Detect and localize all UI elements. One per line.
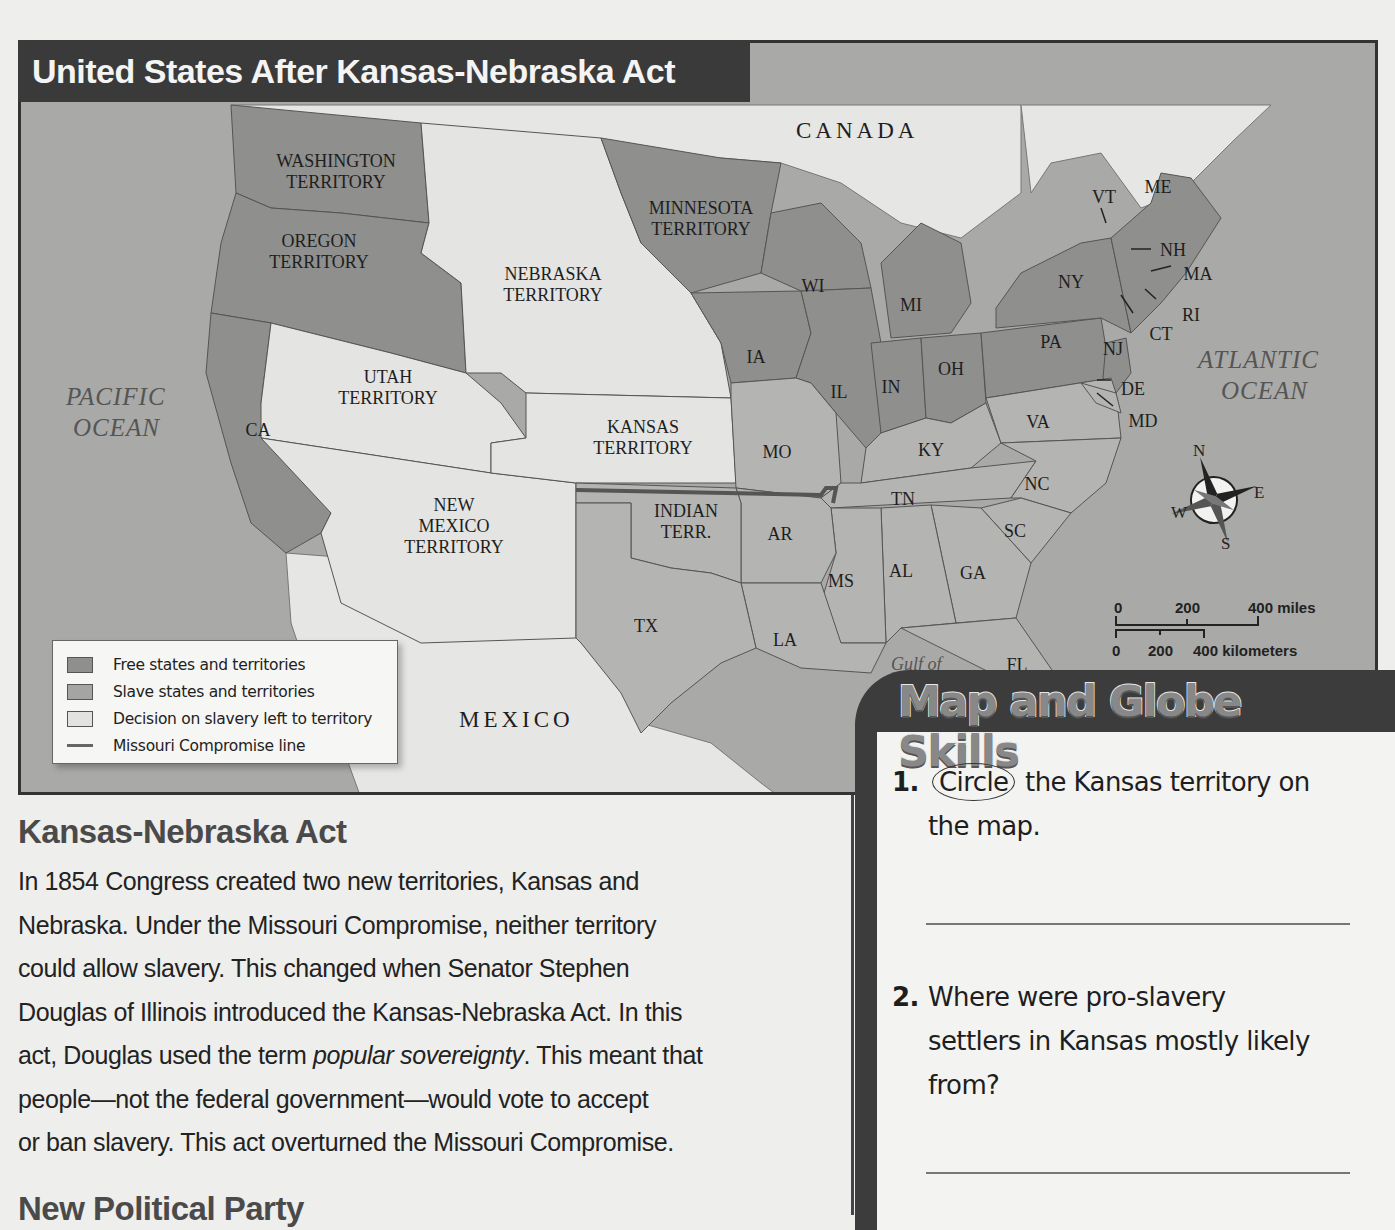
label-state-nj: NJ: [1103, 339, 1123, 359]
key-term: popular sovereignty: [313, 1041, 524, 1069]
scale-mi-0: 0: [1114, 599, 1122, 616]
answer-line-2[interactable]: [926, 1172, 1350, 1174]
body-line: Nebraska. Under the Missouri Compromise,…: [18, 904, 848, 948]
label-state-ga: GA: [960, 563, 986, 583]
legend-item-open: Decision on slavery left to territory: [67, 705, 397, 732]
label-minnesota-1: MINNESOTA: [649, 198, 754, 218]
legend-label: Missouri Compromise line: [113, 737, 305, 755]
label-nebraska-2: TERRITORY: [503, 285, 603, 305]
body-line: people—not the federal government—would …: [18, 1078, 848, 1122]
section-heading: Kansas-Nebraska Act: [18, 813, 347, 851]
legend-swatch-free: [67, 657, 93, 673]
label-state-ky: KY: [918, 440, 944, 460]
label-state-sc: SC: [1004, 521, 1026, 541]
label-minnesota-2: TERRITORY: [651, 219, 751, 239]
answer-line-1[interactable]: [926, 923, 1350, 925]
label-new-mexico-3: TERRITORY: [404, 537, 504, 557]
label-state-wi: WI: [802, 276, 825, 296]
label-state-pa: PA: [1040, 332, 1061, 352]
label-state-tx: TX: [634, 616, 658, 636]
scale-km-0: 0: [1112, 642, 1120, 659]
legend-item-free: Free states and territories: [67, 651, 397, 678]
label-state-ms: MS: [828, 571, 854, 591]
question-number: 1.: [892, 760, 928, 804]
label-state-nc: NC: [1024, 474, 1049, 494]
label-state-la: LA: [773, 630, 797, 650]
compass-w: W: [1171, 503, 1188, 522]
label-state-ri: RI: [1182, 305, 1200, 325]
question-text: from?: [892, 1063, 1352, 1107]
label-atlantic-2: OCEAN: [1221, 377, 1308, 404]
scale-bar: 0 200 400 miles 0 200 400 kilometers: [1112, 599, 1316, 659]
label-state-mi: MI: [900, 295, 922, 315]
question-2: 2.Where were pro-slavery settlers in Kan…: [892, 975, 1352, 1107]
label-state-vt: VT: [1092, 187, 1116, 207]
label-nebraska-1: NEBRASKA: [504, 264, 601, 284]
legend-label: Slave states and territories: [113, 683, 314, 701]
label-state-md: MD: [1128, 411, 1157, 431]
label-oregon-1: OREGON: [282, 231, 357, 251]
question-text: settlers in Kansas mostly likely: [892, 1019, 1352, 1063]
label-state-ma: MA: [1183, 264, 1212, 284]
label-atlantic-1: ATLANTIC: [1196, 346, 1319, 373]
label-indian-1: INDIAN: [654, 501, 718, 521]
circled-word: Circle: [932, 763, 1015, 801]
compass-e: E: [1254, 483, 1264, 502]
label-kansas-1: KANSAS: [607, 417, 679, 437]
label-indian-2: TERR.: [661, 522, 712, 542]
column-divider: [851, 795, 854, 1215]
label-kansas-2: TERRITORY: [593, 438, 693, 458]
label-state-al: AL: [889, 561, 913, 581]
scale-mi-200: 200: [1175, 599, 1200, 616]
label-state-de: DE: [1121, 379, 1145, 399]
label-utah-1: UTAH: [364, 367, 413, 387]
label-pacific-1: PACIFIC: [65, 383, 166, 410]
label-state-oh: OH: [938, 359, 964, 379]
legend-swatch-slave: [67, 684, 93, 700]
scale-mi-400: 400 miles: [1248, 599, 1316, 616]
label-oregon-2: TERRITORY: [269, 252, 369, 272]
next-section-heading: New Political Party: [18, 1190, 304, 1228]
label-state-ar: AR: [767, 524, 792, 544]
label-pacific-2: OCEAN: [73, 414, 160, 441]
body-text-segment: act, Douglas used the term: [18, 1041, 313, 1069]
label-state-tn: TN: [891, 489, 915, 509]
body-line: act, Douglas used the term popular sover…: [18, 1034, 848, 1078]
map-legend: Free states and territories Slave states…: [52, 640, 398, 764]
legend-label: Free states and territories: [113, 656, 305, 674]
label-state-mo: MO: [762, 442, 791, 462]
label-state-me: ME: [1145, 177, 1172, 197]
legend-item-compromise-line: Missouri Compromise line: [67, 732, 397, 759]
label-washington-1: WASHINGTON: [276, 151, 396, 171]
michigan: [881, 223, 971, 338]
label-state-il: IL: [831, 382, 848, 402]
label-washington-2: TERRITORY: [286, 172, 386, 192]
label-new-mexico-2: MEXICO: [419, 516, 490, 536]
label-state-ct: CT: [1149, 324, 1172, 344]
question-text: the map.: [892, 804, 1352, 848]
body-line: could allow slavery. This changed when S…: [18, 947, 848, 991]
label-state-ia: IA: [747, 347, 766, 367]
legend-item-slave: Slave states and territories: [67, 678, 397, 705]
label-mexico: MEXICO: [459, 707, 574, 732]
body-line: Douglas of Illinois introduced the Kansa…: [18, 991, 848, 1035]
question-1: 1.Circle the Kansas territory on the map…: [892, 760, 1352, 848]
body-text-segment: . This meant that: [524, 1041, 703, 1069]
legend-label: Decision on slavery left to territory: [113, 710, 372, 728]
legend-swatch-open: [67, 711, 93, 727]
map-title: United States After Kansas-Nebraska Act: [18, 40, 750, 102]
label-state-in: IN: [882, 377, 901, 397]
label-canada: CANADA: [796, 118, 918, 143]
label-new-mexico-1: NEW: [434, 495, 475, 515]
compass-n: N: [1193, 441, 1205, 460]
body-line: In 1854 Congress created two new territo…: [18, 860, 848, 904]
label-utah-2: TERRITORY: [338, 388, 438, 408]
label-state-ny: NY: [1058, 272, 1084, 292]
body-line: or ban slavery. This act overturned the …: [18, 1121, 848, 1165]
label-state-va: VA: [1026, 412, 1050, 432]
label-state-ca: CA: [245, 420, 270, 440]
scale-km-200: 200: [1148, 642, 1173, 659]
question-text: Where were pro-slavery: [928, 982, 1226, 1012]
compass-s: S: [1221, 534, 1230, 553]
question-text: the Kansas territory on: [1017, 767, 1309, 797]
